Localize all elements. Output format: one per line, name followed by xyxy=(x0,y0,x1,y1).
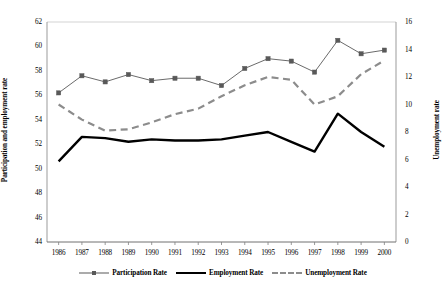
series-marker xyxy=(126,72,130,76)
legend-label: Employment Rate xyxy=(209,269,263,277)
series-marker xyxy=(219,83,223,87)
series-marker xyxy=(312,70,316,74)
series-marker xyxy=(57,91,61,95)
series-marker xyxy=(196,76,200,80)
legend-item-unemployment[interactable]: Unemployment Rate xyxy=(272,268,367,277)
legend-swatch-employment-icon xyxy=(176,268,206,277)
legend-swatch-unemployment-icon xyxy=(272,268,302,277)
legend-item-employment[interactable]: Employment Rate xyxy=(176,268,263,277)
legend-swatch-participation-icon xyxy=(79,268,109,277)
series-marker xyxy=(266,57,270,61)
series-marker xyxy=(243,66,247,70)
legend-item-participation[interactable]: Participation Rate xyxy=(79,268,167,277)
series-line-employment-rate xyxy=(59,114,385,162)
series-marker xyxy=(103,80,107,84)
series-marker xyxy=(80,74,84,78)
legend-label: Participation Rate xyxy=(112,269,167,277)
series-line-unemployment-rate xyxy=(59,61,385,131)
series-marker xyxy=(289,59,293,63)
plot-area xyxy=(0,0,446,295)
series-marker xyxy=(359,52,363,56)
series-marker xyxy=(336,38,340,42)
legend-label: Unemployment Rate xyxy=(305,269,367,277)
series-marker xyxy=(173,76,177,80)
chart-legend: Participation RateEmployment RateUnemplo… xyxy=(0,268,446,277)
series-marker xyxy=(150,79,154,83)
series-marker xyxy=(382,48,386,52)
chart-container: Participation and employment rate Unempl… xyxy=(0,0,446,295)
